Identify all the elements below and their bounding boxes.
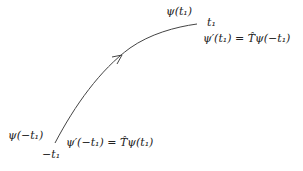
label-t1: t₁	[207, 17, 216, 28]
arrowhead-icon	[112, 55, 122, 64]
trajectory-curve	[55, 24, 197, 143]
label-psi-prime-minus-t1: ψ′(−t₁) = T̂ψ(t₁)	[66, 137, 153, 148]
label-psi-t1: ψ(t₁)	[166, 6, 192, 17]
label-psi-minus-t1: ψ(−t₁)	[8, 130, 43, 141]
label-minus-t1: −t₁	[42, 149, 60, 160]
label-psi-prime-t1: ψ′(t₁) = T̂ψ(−t₁)	[203, 33, 290, 44]
